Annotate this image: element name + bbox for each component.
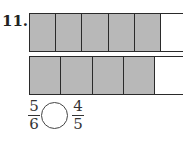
bar-cell-shaded [108, 14, 134, 51]
bar-cell-shaded [29, 14, 55, 51]
problem-number: 11. [2, 12, 28, 30]
bar-cell-shaded [55, 14, 81, 51]
bar-cell-blank [160, 14, 183, 51]
fraction-bar-sixths [29, 13, 183, 52]
numerator: 5 [29, 99, 39, 114]
bar-cell-shaded [81, 14, 108, 51]
bar-cell-shaded [60, 57, 92, 94]
fraction-bar-fifths [29, 56, 183, 95]
bar-cell-blank [154, 57, 183, 94]
bar-cell-shaded [29, 57, 60, 94]
fraction-right: 4 5 [71, 99, 85, 132]
numerator: 4 [73, 99, 83, 114]
bar-cell-shaded [92, 57, 123, 94]
comparison-answer-circle[interactable] [41, 102, 68, 129]
fraction-left: 5 6 [27, 99, 41, 132]
bar-cell-shaded [123, 57, 154, 94]
denominator: 6 [29, 117, 39, 132]
denominator: 5 [73, 117, 83, 132]
bar-cell-shaded [134, 14, 160, 51]
